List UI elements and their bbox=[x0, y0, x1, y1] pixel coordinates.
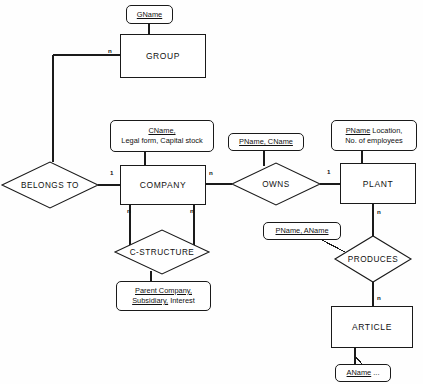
entity-company[interactable]: COMPANY bbox=[120, 165, 206, 205]
diamond-produces bbox=[335, 236, 411, 282]
attribute-gname-key: GName bbox=[137, 10, 162, 19]
attribute-pname-aname-line1: PName, AName bbox=[276, 226, 329, 236]
cardinality-company-n-left: n bbox=[127, 207, 131, 214]
entity-company-label: COMPANY bbox=[140, 180, 187, 190]
entity-plant-label: PLANT bbox=[363, 179, 393, 189]
attribute-cname[interactable]: CName, Legal form, Capital stock bbox=[110, 120, 214, 152]
cardinality-group-n: n bbox=[108, 47, 112, 54]
diamond-belongs-to bbox=[2, 162, 98, 208]
attribute-pname-aname-key: PName, AName bbox=[276, 226, 329, 235]
attribute-pname-cname[interactable]: PName, CName bbox=[228, 133, 304, 151]
attribute-subsidiary-key: Subsidiary, bbox=[132, 296, 168, 305]
er-diagram-canvas: GROUP COMPANY PLANT ARTICLE BELONGS TO O… bbox=[0, 0, 423, 384]
attribute-pname-cname-key: PName, CName bbox=[239, 137, 293, 146]
attribute-parent-company-line2: Subsidiary, Interest bbox=[132, 296, 195, 306]
attribute-gname-line1: GName bbox=[137, 10, 162, 20]
cardinality-plant-n-text: n bbox=[377, 208, 381, 215]
attribute-pname-location-rest: Location, bbox=[370, 126, 402, 135]
entity-plant[interactable]: PLANT bbox=[340, 163, 416, 204]
attribute-pname-aname[interactable]: PName, AName bbox=[263, 222, 341, 240]
entity-article-label: ARTICLE bbox=[352, 322, 392, 332]
attribute-cname-key: CName, bbox=[148, 126, 175, 135]
attribute-parent-company-key: Parent Company, bbox=[135, 286, 192, 295]
attribute-cname-line1: CName, bbox=[148, 126, 175, 136]
cardinality-company-n: n bbox=[209, 169, 213, 176]
attribute-cname-line2: Legal form, Capital stock bbox=[121, 136, 202, 146]
cardinality-plant-1-text: 1 bbox=[327, 168, 330, 175]
cardinality-plant-n: n bbox=[377, 208, 381, 215]
attribute-pname-location-key: PName bbox=[346, 126, 371, 135]
attribute-gname[interactable]: GName bbox=[126, 5, 173, 24]
attribute-pname-location[interactable]: PName Location, No. of employees bbox=[331, 120, 417, 151]
cardinality-group-n-text: n bbox=[108, 47, 112, 54]
cardinality-company-n-text: n bbox=[209, 169, 213, 176]
diamond-owns bbox=[232, 163, 320, 205]
attribute-pname-location-line2: No. of employees bbox=[345, 136, 403, 146]
attribute-aname-rest: ... bbox=[371, 368, 379, 377]
attribute-parent-company[interactable]: Parent Company, Subsidiary, Interest bbox=[116, 281, 211, 311]
attribute-parent-company-line1: Parent Company, bbox=[135, 286, 192, 296]
attribute-aname-line1: AName ... bbox=[347, 368, 380, 378]
attribute-interest-text: Interest bbox=[168, 296, 195, 305]
attribute-aname-key: AName bbox=[347, 368, 372, 377]
cardinality-company-n-right-text: n bbox=[190, 207, 194, 214]
cardinality-company-1: 1 bbox=[110, 169, 113, 176]
line-article-aname2 bbox=[355, 356, 362, 364]
diamond-c-structure bbox=[115, 230, 209, 274]
cardinality-article-n: n bbox=[377, 294, 381, 301]
cardinality-company-n-left-text: n bbox=[127, 207, 131, 214]
cardinality-company-n-right: n bbox=[190, 207, 194, 214]
line-pnameaname-produces bbox=[322, 240, 345, 252]
cardinality-company-1-text: 1 bbox=[110, 169, 113, 176]
attribute-aname[interactable]: AName ... bbox=[335, 364, 391, 382]
cardinality-plant-1: 1 bbox=[327, 168, 330, 175]
entity-group[interactable]: GROUP bbox=[120, 34, 206, 78]
attribute-pname-location-line1: PName Location, bbox=[346, 126, 403, 136]
cardinality-article-n-text: n bbox=[377, 294, 381, 301]
entity-group-label: GROUP bbox=[146, 51, 180, 61]
attribute-pname-cname-line1: PName, CName bbox=[239, 137, 293, 147]
entity-article[interactable]: ARTICLE bbox=[331, 306, 413, 348]
